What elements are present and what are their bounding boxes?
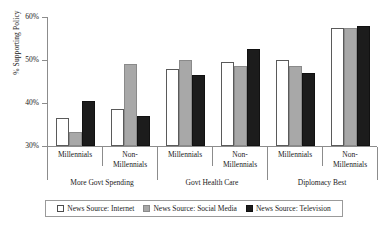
demo-label-0-line1: Millennials	[49, 150, 101, 160]
demo-label-5-line2: Millennials	[324, 160, 376, 170]
separator-4	[267, 147, 268, 166]
topic-label-1: Govt Health Care	[157, 178, 267, 187]
topic-label-2: Diplomacy Best	[267, 178, 377, 187]
legend-swatch-internet-icon	[57, 205, 64, 212]
bar-tv-2	[192, 75, 205, 146]
legend-item-television[interactable]: News Source: Television	[246, 204, 331, 213]
legend-label-television: News Source: Television	[256, 204, 331, 213]
demo-label-4: Millennials	[269, 150, 321, 160]
bar-group-4	[269, 17, 322, 146]
y-axis-tick-label-50: 50%	[25, 55, 39, 64]
topic-separator-3	[377, 166, 378, 180]
bar-internet-4	[276, 60, 289, 146]
legend-swatch-television-icon	[246, 205, 253, 212]
bar-social-3	[234, 66, 247, 146]
legend-label-internet: News Source: Internet	[67, 204, 134, 213]
demo-label-3-line2: Millennials	[214, 160, 266, 170]
demo-label-2-line1: Millennials	[159, 150, 211, 160]
demo-label-5: Non- Millennials	[324, 150, 376, 169]
legend-label-social-media: News Source: Social Media	[153, 204, 237, 213]
bar-social-0	[69, 132, 82, 146]
bar-social-4	[289, 66, 302, 146]
separator-3	[212, 147, 213, 166]
demo-label-0: Millennials	[49, 150, 101, 160]
y-axis-tick-label-60: 60%	[25, 12, 39, 21]
bar-group-3	[214, 17, 267, 146]
y-axis-title: % Supporting Policy	[12, 0, 21, 103]
bar-internet-1	[111, 109, 124, 146]
legend: News Source: Internet News Source: Socia…	[45, 200, 343, 217]
bar-internet-5	[331, 28, 344, 146]
legend-swatch-social-media-icon	[143, 205, 150, 212]
y-axis-tick-50: 50%	[42, 60, 47, 61]
y-axis-tick-60: 60%	[42, 17, 47, 18]
bar-tv-4	[302, 73, 315, 146]
bar-social-5	[344, 28, 357, 146]
y-axis-tick-40: 40%	[42, 103, 47, 104]
bar-group-5	[324, 17, 377, 146]
bar-internet-3	[221, 62, 234, 146]
separator-0	[47, 147, 48, 166]
demo-label-5-line1: Non-	[324, 150, 376, 160]
demo-label-2: Millennials	[159, 150, 211, 160]
legend-item-social-media[interactable]: News Source: Social Media	[143, 204, 237, 213]
bar-tv-3	[247, 49, 260, 146]
separator-2	[157, 147, 158, 166]
bar-chart: % Supporting Policy 60% 50% 40% 30%	[0, 0, 385, 227]
bar-tv-0	[82, 101, 95, 146]
bar-group-1	[104, 17, 157, 146]
separator-1	[102, 147, 103, 166]
bar-tv-1	[137, 116, 150, 146]
separator-6	[377, 147, 378, 166]
bar-social-2	[179, 60, 192, 146]
demo-label-1-line2: Millennials	[104, 160, 156, 170]
plot-area: 60% 50% 40% 30%	[47, 17, 377, 147]
y-axis-tick-label-40: 40%	[25, 98, 39, 107]
bar-tv-5	[357, 26, 370, 146]
y-axis-line	[47, 17, 48, 147]
demo-label-3-line1: Non-	[214, 150, 266, 160]
bar-group-0	[49, 17, 102, 146]
legend-item-internet[interactable]: News Source: Internet	[57, 204, 134, 213]
bar-internet-0	[56, 118, 69, 146]
demo-label-1: Non- Millennials	[104, 150, 156, 169]
demo-label-1-line1: Non-	[104, 150, 156, 160]
topic-label-0: More Govt Spending	[47, 178, 157, 187]
bar-internet-2	[166, 69, 179, 146]
demo-label-4-line1: Millennials	[269, 150, 321, 160]
bar-group-2	[159, 17, 212, 146]
bar-social-1	[124, 64, 137, 146]
y-axis-tick-label-30: 30%	[25, 141, 39, 150]
demo-label-3: Non- Millennials	[214, 150, 266, 169]
separator-5	[322, 147, 323, 166]
